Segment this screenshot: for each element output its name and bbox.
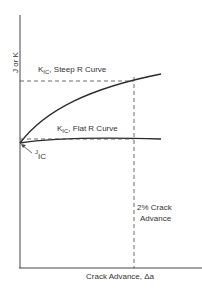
x-axis-label: Crack Advance, Δa <box>86 273 154 281</box>
y-axis-label: J or K <box>11 52 20 73</box>
flat-r-curve-label: KIC, Flat R Curve <box>57 125 118 133</box>
two-percent-crack-advance-label: 2% Crack Advance <box>137 202 172 224</box>
r-curve-diagram <box>0 0 202 288</box>
steep-r-curve-label: KIC, Steep R Curve <box>38 66 106 74</box>
jic-label: JIC <box>35 150 46 158</box>
